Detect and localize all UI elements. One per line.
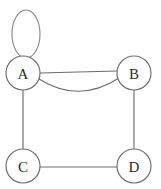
node-d-label: D [129,159,140,175]
node-a[interactable]: A [6,56,40,90]
node-c-label: C [18,159,28,175]
node-b[interactable]: B [117,56,151,90]
node-a-label: A [18,66,29,82]
node-b-label: B [129,66,139,82]
node-c[interactable]: C [6,149,40,183]
edge-a-b-straight [40,71,117,73]
node-d[interactable]: D [117,149,151,183]
graph-canvas: A B C D [0,0,161,189]
edge-a-b-curved [39,78,119,91]
graph-diagram: A B C D [0,0,161,189]
edge-self-loop-a [12,10,40,58]
